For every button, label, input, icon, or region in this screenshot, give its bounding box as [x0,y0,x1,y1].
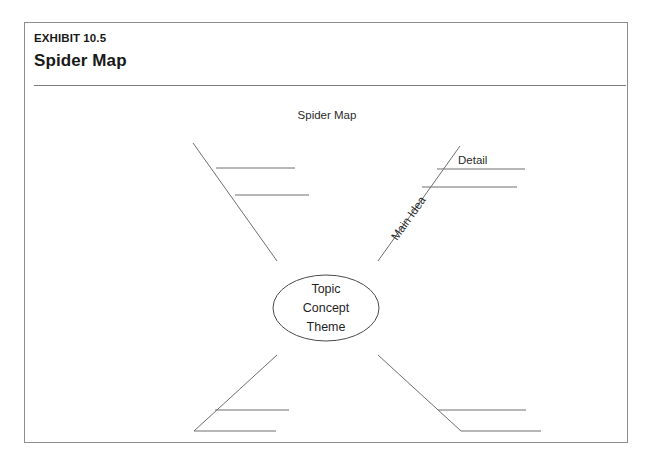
center-node-line-3: Theme [307,320,346,334]
branch-line-lower-right [378,355,461,431]
branch-label-detail: Detail [458,154,487,166]
spider-map-svg: Spider Map [25,23,629,444]
spider-map-diagram: Spider Map [25,23,629,444]
exhibit-frame: EXHIBIT 10.5 Spider Map Spider Map [24,22,628,443]
branch-line-upper-left [193,143,277,261]
branch-label-main-idea: Main Idea [389,194,428,243]
branch-line-lower-left [194,355,277,431]
diagram-caption: Spider Map [298,109,357,121]
center-node-line-1: Topic [311,282,340,296]
center-node-line-2: Concept [303,301,350,315]
